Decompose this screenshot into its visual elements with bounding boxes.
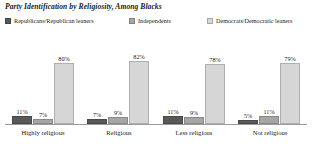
bar-value-label: 11% xyxy=(167,108,178,115)
plot-area: 11%7%80%7%9%82%11%9%78%5%11%79% xyxy=(5,28,307,125)
bar-item[interactable]: 82% xyxy=(129,28,149,124)
category-label: Not religious xyxy=(232,128,308,137)
bar-item[interactable]: 80% xyxy=(54,28,74,124)
bar-value-label: 80% xyxy=(58,55,69,62)
bar-group-bars: 7%9%82% xyxy=(87,28,149,124)
bar[interactable] xyxy=(108,117,128,124)
bar-item[interactable]: 5% xyxy=(238,28,258,124)
legend-label-republicans: Republicans/Republican leaners xyxy=(14,17,94,24)
bar[interactable] xyxy=(163,116,183,124)
chart-legend: Republicans/Republican leaners Independe… xyxy=(5,15,309,26)
bar[interactable] xyxy=(12,116,32,124)
legend-swatch-democrats xyxy=(207,18,213,24)
bar[interactable] xyxy=(280,63,300,124)
bar-item[interactable]: 7% xyxy=(33,28,53,124)
legend-swatch-independents xyxy=(129,18,135,24)
bar-group-bars: 5%11%79% xyxy=(238,28,300,124)
bar[interactable] xyxy=(87,119,107,124)
bar-value-label: 11% xyxy=(16,108,27,115)
bar[interactable] xyxy=(238,120,258,124)
bar-item[interactable]: 78% xyxy=(205,28,225,124)
bar[interactable] xyxy=(54,63,74,124)
bar-group-bars: 11%9%78% xyxy=(163,28,225,124)
legend-item-independents[interactable]: Independents xyxy=(129,15,171,26)
bar[interactable] xyxy=(33,119,53,124)
legend-label-democrats: Democrats/Democratic leaners xyxy=(216,17,292,24)
bar-item[interactable]: 11% xyxy=(163,28,183,124)
category-label: Less religious xyxy=(156,128,232,137)
x-axis-category-labels: Highly religiousReligiousLess religiousN… xyxy=(5,128,307,140)
bar-group: 11%7%80% xyxy=(12,28,74,124)
chart-container: Party Identification by Religiosity, Amo… xyxy=(0,0,312,147)
bar-item[interactable]: 7% xyxy=(87,28,107,124)
bar-value-label: 78% xyxy=(209,56,220,63)
legend-swatch-republicans xyxy=(5,18,11,24)
bar-value-label: 7% xyxy=(39,111,47,118)
bar-value-label: 5% xyxy=(244,112,252,119)
x-axis-baseline xyxy=(5,124,307,125)
bar-item[interactable]: 9% xyxy=(108,28,128,124)
bar[interactable] xyxy=(259,116,279,124)
bar-group: 11%9%78% xyxy=(163,28,225,124)
category-label: Highly religious xyxy=(5,128,81,137)
bar-value-label: 9% xyxy=(114,109,122,116)
bar[interactable] xyxy=(129,61,149,124)
chart-title: Party Identification by Religiosity, Amo… xyxy=(5,2,162,11)
bar-item[interactable]: 11% xyxy=(259,28,279,124)
bar-value-label: 82% xyxy=(133,53,144,60)
bar-item[interactable]: 9% xyxy=(184,28,204,124)
bar[interactable] xyxy=(205,64,225,124)
bar-group-bars: 11%7%80% xyxy=(12,28,74,124)
bar-value-label: 11% xyxy=(263,108,274,115)
bar-group: 7%9%82% xyxy=(87,28,149,124)
category-label: Religious xyxy=(81,128,157,137)
bar-item[interactable]: 79% xyxy=(280,28,300,124)
bar-value-label: 7% xyxy=(93,111,101,118)
bar-value-label: 79% xyxy=(284,55,295,62)
legend-item-republicans[interactable]: Republicans/Republican leaners xyxy=(5,15,94,26)
bar[interactable] xyxy=(184,117,204,124)
bar-value-label: 9% xyxy=(190,109,198,116)
legend-item-democrats[interactable]: Democrats/Democratic leaners xyxy=(207,15,292,26)
bar-item[interactable]: 11% xyxy=(12,28,32,124)
bar-group: 5%11%79% xyxy=(238,28,300,124)
legend-label-independents: Independents xyxy=(138,17,171,24)
